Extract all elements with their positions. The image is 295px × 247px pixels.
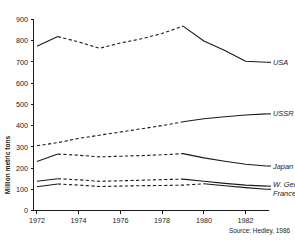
x-tick-label-1980: 1980 [196, 216, 212, 225]
y-tick-label-300: 300 [16, 143, 28, 152]
series-ussr-dashed-mid [37, 122, 183, 146]
y-tick-label-100: 100 [16, 185, 28, 194]
chart-canvas: 900 800 700 600 500 400 300 200 100 0 19… [0, 0, 295, 247]
series-japan [37, 154, 271, 166]
series-w-germany-solid-tail [183, 179, 267, 186]
x-tick-label-1982: 1982 [238, 216, 254, 225]
series-label-usa: USA [273, 58, 288, 67]
series-japan-solid-head [37, 154, 58, 162]
y-tick-labels: 900 800 700 600 500 400 300 200 100 0 [16, 15, 28, 215]
x-tick-label-1974: 1974 [71, 216, 87, 225]
series-france-solid-head [37, 184, 58, 187]
series-label-ussr: USSR [273, 109, 294, 118]
series-w-germany-solid-head [37, 179, 58, 182]
x-tick-marks [37, 211, 246, 215]
x-tick-label-1972: 1972 [29, 216, 45, 225]
series-label-w-germany: W. Germany [273, 180, 295, 189]
series-usa-solid-head [37, 37, 58, 47]
series-ussr-solid-tail [183, 114, 267, 122]
series-ussr [37, 114, 271, 146]
axes-group [34, 20, 269, 211]
series-usa-solid-tail [183, 26, 267, 62]
y-axis-title: Million metric tons [4, 136, 11, 195]
y-tick-label-0: 0 [24, 206, 28, 215]
series-labels-group: USA USSR Japan W. Germany France [272, 58, 295, 198]
series-label-france: France [273, 189, 295, 198]
y-tick-label-400: 400 [16, 121, 28, 130]
series-japan-dashed-mid [58, 154, 183, 157]
source-note: Source: Hedley, 1986 [229, 227, 290, 235]
line-chart-figure: 900 800 700 600 500 400 300 200 100 0 19… [0, 0, 295, 247]
y-tick-label-900: 900 [16, 15, 28, 24]
y-tick-label-800: 800 [16, 36, 28, 45]
series-japan-solid-tail [183, 154, 267, 166]
y-tick-label-600: 600 [16, 79, 28, 88]
series-label-japan: Japan [272, 162, 293, 171]
series-usa-dashed-mid [58, 26, 183, 48]
y-tick-label-700: 700 [16, 58, 28, 67]
y-tick-label-200: 200 [16, 164, 28, 173]
series-france-dashed-mid [58, 184, 204, 187]
series-usa [37, 26, 271, 62]
series-w-germany-dashed-mid [58, 179, 183, 182]
x-tick-label-1976: 1976 [112, 216, 128, 225]
x-tick-labels: 1972 1974 1976 1978 1980 1982 [29, 216, 254, 225]
y-tick-label-500: 500 [16, 100, 28, 109]
x-tick-label-1978: 1978 [154, 216, 170, 225]
